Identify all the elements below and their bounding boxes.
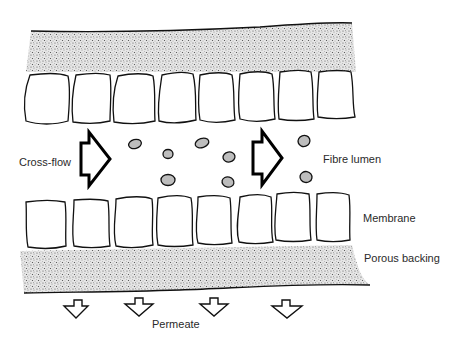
porous-backing-top [26,23,356,72]
porous-backing-bottom [20,245,370,293]
permeate-arrow-4 [272,300,302,318]
hollow-fibre-diagram: Cross-flow Fibre lumen Membrane Porous b… [0,0,463,338]
particles [128,134,313,189]
label-cross-flow: Cross-flow [19,156,71,168]
label-membrane: Membrane [363,212,416,224]
permeate-arrow-1 [64,300,88,318]
label-porous-backing: Porous backing [364,252,440,264]
label-permeate: Permeate [152,318,200,330]
cross-flow-arrow-right [253,131,282,185]
permeate-arrow-3 [200,298,228,316]
membrane-top [25,71,355,125]
permeate-arrows [64,298,302,318]
membrane-bottom [26,193,350,249]
cross-flow-arrow-left [81,132,110,186]
label-fibre-lumen: Fibre lumen [323,153,381,165]
permeate-arrow-2 [125,298,153,316]
